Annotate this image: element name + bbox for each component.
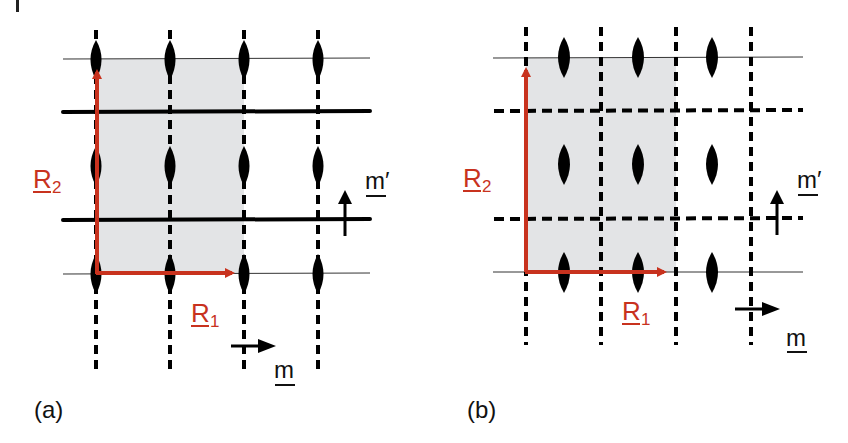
caption-a: (a) — [34, 396, 63, 423]
label-r1-b: R — [622, 296, 641, 326]
arrow-up-icon — [770, 190, 784, 204]
mirror-line-a-2 — [63, 219, 370, 220]
label-m-prime-a: m′ — [365, 167, 390, 194]
lattice-line-top-a — [63, 58, 370, 59]
panel-b — [493, 27, 803, 345]
lattice-line-top-b — [493, 57, 803, 58]
label-r1-sub-a: 1 — [210, 312, 219, 331]
caption-b: (b) — [467, 396, 496, 423]
label-r1-a: R — [191, 298, 210, 328]
label-r1-sub-b: 1 — [641, 310, 650, 329]
mirror-line-a-1 — [63, 111, 370, 112]
label-r2-sub-a: 2 — [52, 178, 61, 197]
arrow-up-icon — [338, 190, 352, 204]
label-m-a: m — [274, 356, 294, 383]
label-m-prime-b: m′ — [797, 166, 822, 193]
figure-canvas: R 2 R 1 m′ m (a) R 2 R 1 m′ m (b) — [0, 0, 848, 443]
page-mark — [16, 0, 19, 12]
label-r2-b: R — [463, 163, 482, 193]
label-m-b: m — [786, 324, 806, 351]
label-r2-a: R — [33, 164, 52, 194]
label-r2-sub-b: 2 — [482, 177, 491, 196]
arrow-right-icon — [762, 302, 780, 316]
arrow-right-icon — [258, 339, 276, 353]
